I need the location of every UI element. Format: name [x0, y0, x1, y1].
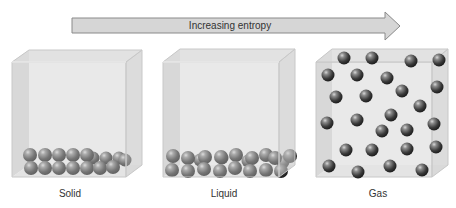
- entropy-diagram: [0, 0, 456, 208]
- liquid-label: Liquid: [211, 188, 238, 199]
- solid-container: [12, 50, 142, 177]
- gas-container: [316, 49, 448, 179]
- arrow-label: Increasing entropy: [189, 20, 271, 31]
- gas-label: Gas: [369, 188, 387, 199]
- solid-label: Solid: [59, 188, 81, 199]
- liquid-container: [163, 49, 297, 178]
